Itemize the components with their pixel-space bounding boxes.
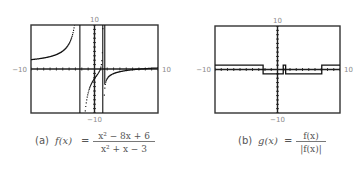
figure: −101010−10(a)f(x)=x² − 8x + 6x² + x − 3−… <box>0 0 357 169</box>
chart-a: −101010−10(a)f(x)=x² − 8x + 6x² + x − 3 <box>12 16 171 154</box>
x-min-label: −10 <box>12 66 27 74</box>
equals-sign: = <box>284 135 292 146</box>
chart-b: −101010−10(b)g(x)=f(x)|f(x)| <box>196 17 353 155</box>
numerator: f(x) <box>303 131 318 141</box>
y-min-label: −10 <box>87 116 102 124</box>
y-max-label: 10 <box>273 17 282 25</box>
function-name: g(x) <box>258 135 278 146</box>
denominator: |f(x)| <box>300 144 322 155</box>
caption-label: (b) <box>238 135 252 146</box>
caption: (b)g(x)=f(x)|f(x)| <box>238 131 326 155</box>
numerator: x² − 8x + 6 <box>98 131 150 141</box>
x-min-label: −10 <box>196 66 211 74</box>
function-name: f(x) <box>54 135 72 146</box>
denominator: x² + x − 3 <box>101 144 147 154</box>
x-max-label: 10 <box>344 66 353 74</box>
x-max-label: 10 <box>162 66 171 74</box>
y-min-label: −10 <box>270 116 285 124</box>
equals-sign: = <box>81 135 89 146</box>
caption-label: (a) <box>35 135 49 146</box>
y-max-label: 10 <box>90 16 99 24</box>
caption: (a)f(x)=x² − 8x + 6x² + x − 3 <box>35 131 155 154</box>
